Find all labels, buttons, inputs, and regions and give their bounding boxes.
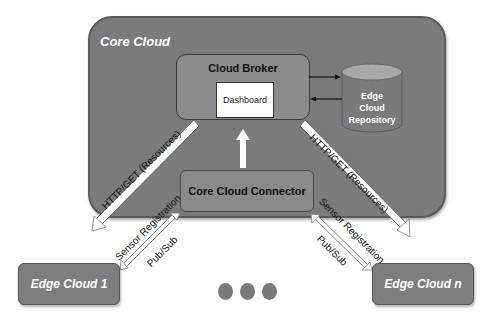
- ellipsis-dot-icon: [262, 283, 277, 300]
- repository-label-line3: Repository: [348, 114, 396, 126]
- repository-label-line1: Edge: [348, 90, 396, 102]
- edge-cloud-n-box: Edge Cloud n: [372, 263, 474, 305]
- ellipsis-dot-icon: [218, 283, 233, 300]
- repository-label-line2: Cloud: [348, 102, 396, 114]
- core-cloud-connector-box: Core Cloud Connector: [180, 170, 314, 212]
- arrow-up-icon: [236, 129, 250, 168]
- ellipsis-dot-icon: [240, 283, 255, 300]
- repository-label: Edge Cloud Repository: [348, 90, 396, 126]
- edge-cloud-1-box: Edge Cloud 1: [18, 263, 120, 305]
